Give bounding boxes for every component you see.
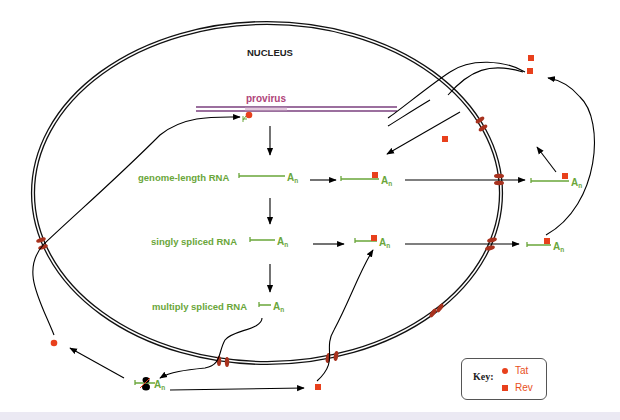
- genome-length-rna-label: genome-length RNA: [138, 173, 229, 183]
- hiv-rna-export-diagram: NUCLEUS provirus genome-length RNA singl…: [0, 0, 620, 420]
- diagram-canvas: [0, 0, 620, 420]
- key-item-rev: Rev: [502, 382, 533, 393]
- polya-tail: An: [381, 176, 392, 188]
- tat-proteins: [51, 340, 58, 347]
- legend-key: Key: Tat Rev: [461, 358, 547, 400]
- multiply-spliced-rna-label: multiply spliced RNA: [152, 302, 247, 312]
- polya-tail: An: [287, 173, 298, 185]
- polya-tail: An: [379, 238, 390, 250]
- polya-tail: An: [553, 242, 564, 254]
- key-item-tat: Tat: [502, 365, 528, 376]
- polya-tail: An: [154, 380, 165, 392]
- nuclear-envelope: [33, 23, 501, 363]
- bottom-band: [0, 412, 620, 420]
- tat-circle-icon: [502, 368, 508, 374]
- singly-spliced-rna-label: singly spliced RNA: [151, 237, 237, 247]
- provirus-label: provirus: [246, 94, 286, 104]
- ribosome-icon: [140, 377, 150, 391]
- polya-tail: An: [277, 237, 288, 249]
- rev-square-icon: [502, 385, 508, 391]
- tat-protein-at-ltr: [246, 112, 253, 119]
- provirus-dna: [196, 107, 397, 111]
- nucleus-label: NUCLEUS: [247, 48, 293, 58]
- rev-proteins: [315, 55, 568, 390]
- key-title: Key:: [473, 371, 494, 382]
- polya-tail: An: [571, 178, 582, 190]
- polya-tail: An: [273, 302, 284, 314]
